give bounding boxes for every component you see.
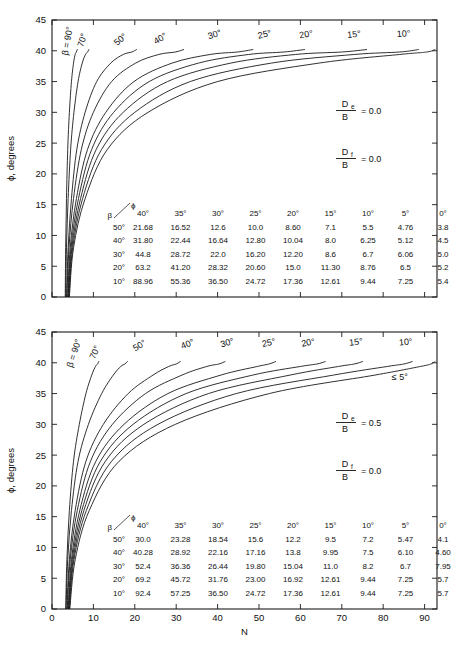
table-cell: 9.44 bbox=[360, 277, 376, 286]
table-cell: 28.72 bbox=[170, 250, 191, 259]
table-cell: 7.95 bbox=[435, 562, 451, 571]
curve-label: β = 90° bbox=[60, 25, 75, 56]
y-tick-label: 10 bbox=[35, 230, 46, 241]
table-corner-row-label: β bbox=[107, 211, 112, 220]
x-tick-label: 60 bbox=[295, 612, 306, 623]
x-tick-label: 80 bbox=[378, 612, 389, 623]
curves-group bbox=[66, 362, 435, 609]
table-column-header: 10° bbox=[362, 209, 374, 218]
table-cell: 41.20 bbox=[170, 263, 191, 272]
table-cell: 31.80 bbox=[133, 236, 154, 245]
table-cell: 5.0 bbox=[437, 250, 449, 259]
table-cell: 12.2 bbox=[285, 535, 301, 544]
table-row-header: 40° bbox=[113, 548, 125, 557]
y-tick-label: 5 bbox=[41, 573, 46, 584]
table-cell: 23.28 bbox=[170, 535, 191, 544]
y-tick-label: 5 bbox=[41, 261, 46, 272]
table-cell: 5.7 bbox=[437, 575, 449, 584]
curve-label: 15° bbox=[349, 336, 364, 348]
annotation-value: = 0.0 bbox=[361, 106, 381, 116]
table-column-header: 35° bbox=[174, 521, 186, 530]
table-cell: 36.50 bbox=[208, 589, 229, 598]
annotation-fraction: DeB= 0.5 bbox=[336, 411, 381, 434]
table-cell: 12.61 bbox=[320, 589, 341, 598]
table-corner-slash bbox=[114, 515, 130, 530]
table-cell: 20.60 bbox=[245, 263, 266, 272]
y-tick-label: 0 bbox=[41, 291, 46, 302]
table-cell: 5.2 bbox=[437, 263, 449, 272]
y-tick-label: 25 bbox=[35, 138, 46, 149]
curve-10deg bbox=[69, 50, 435, 297]
curve-25deg bbox=[69, 362, 326, 609]
table-cell: 6.10 bbox=[398, 548, 414, 557]
table-cell: 63.2 bbox=[135, 263, 151, 272]
table-cell: 28.92 bbox=[170, 548, 191, 557]
table-cell: 17.36 bbox=[283, 589, 304, 598]
curve-label: 15° bbox=[347, 29, 362, 40]
x-tick-label: 50 bbox=[254, 612, 265, 623]
table-cell: 7.25 bbox=[398, 277, 414, 286]
table-cell: 9.44 bbox=[360, 589, 376, 598]
annotation-numerator: D bbox=[342, 459, 349, 469]
table-cell: 16.64 bbox=[208, 236, 229, 245]
table-cell: 7.25 bbox=[398, 589, 414, 598]
table-cell: 4.5 bbox=[437, 236, 449, 245]
table-corner-row-label: β bbox=[107, 523, 112, 532]
table-cell: 4.60 bbox=[435, 548, 451, 557]
table-cell: 55.36 bbox=[170, 277, 191, 286]
table-cell: 24.72 bbox=[245, 277, 266, 286]
curve-label: 20° bbox=[301, 336, 317, 348]
curve-25deg bbox=[68, 50, 304, 297]
table-cell: 16.52 bbox=[170, 223, 191, 232]
curve-40deg bbox=[67, 362, 225, 609]
figure-page: 051015202530354045ϕ, degreesβ = 90°70°50… bbox=[0, 0, 458, 650]
x-tick-label: 10 bbox=[88, 612, 99, 623]
table-cell: 10.04 bbox=[283, 236, 304, 245]
table-cell: 10.0 bbox=[248, 223, 264, 232]
curve-label: 25° bbox=[261, 336, 277, 349]
table-cell: 16.20 bbox=[245, 250, 266, 259]
table-cell: 9.44 bbox=[360, 575, 376, 584]
annotation-denominator: B bbox=[342, 424, 348, 434]
table-column-header: 40° bbox=[137, 209, 149, 218]
y-tick-label: 35 bbox=[35, 76, 46, 87]
y-axis-title: ϕ, degrees bbox=[5, 136, 16, 181]
y-tick-label: 20 bbox=[35, 480, 46, 491]
y-tick-label: 0 bbox=[41, 603, 46, 614]
table-cell: 8.76 bbox=[360, 263, 376, 272]
table-row-header: 10° bbox=[113, 277, 125, 286]
data-table: ϕβ40°35°30°25°20°15°10°5°0°50°30.023.281… bbox=[107, 513, 451, 598]
table-cell: 3.8 bbox=[437, 223, 449, 232]
curve-10deg bbox=[70, 362, 435, 609]
table-cell: 17.16 bbox=[245, 548, 266, 557]
table-cell: 6.7 bbox=[362, 250, 374, 259]
y-axis-title: ϕ, degrees bbox=[5, 448, 16, 493]
table-cell: 18.54 bbox=[208, 535, 229, 544]
curve-label: 50° bbox=[112, 31, 129, 48]
annotation-fraction: DfB= 0.0 bbox=[336, 147, 381, 170]
table-cell: 31.76 bbox=[208, 575, 229, 584]
chart-panel-bottom: 0510152025303540450102030405060708090ϕ, … bbox=[0, 322, 458, 650]
table-cell: 8.2 bbox=[362, 562, 374, 571]
table-column-header: 25° bbox=[249, 209, 261, 218]
annotation-subscript: f bbox=[351, 151, 353, 158]
table-cell: 11.0 bbox=[323, 562, 339, 571]
table-cell: 69.2 bbox=[135, 575, 151, 584]
chart-svg-bottom: 0510152025303540450102030405060708090ϕ, … bbox=[0, 322, 458, 650]
table-cell: 6.06 bbox=[398, 250, 414, 259]
table-cell: 7.25 bbox=[398, 575, 414, 584]
table-row-header: 30° bbox=[113, 562, 125, 571]
curve-label: 10° bbox=[398, 336, 413, 347]
table-cell: 7.2 bbox=[362, 535, 374, 544]
x-tick-label: 90 bbox=[419, 612, 430, 623]
curve-20deg bbox=[69, 50, 367, 297]
y-tick-label: 30 bbox=[35, 107, 46, 118]
table-cell: 23.00 bbox=[245, 575, 266, 584]
curve-label: 40° bbox=[152, 30, 169, 46]
curve-label: β = 90° bbox=[65, 337, 84, 368]
table-row-header: 30° bbox=[113, 250, 125, 259]
table-cell: 30.0 bbox=[135, 535, 151, 544]
table-cell: 12.61 bbox=[320, 277, 341, 286]
table-cell: 12.6 bbox=[210, 223, 226, 232]
curve-label: 25° bbox=[257, 28, 273, 41]
